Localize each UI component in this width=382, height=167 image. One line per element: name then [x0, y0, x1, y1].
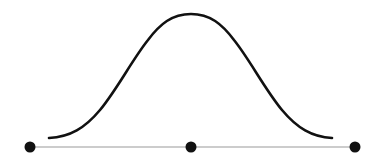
left-point: [25, 142, 36, 153]
center-point: [186, 142, 197, 153]
bell-curve: [49, 14, 332, 138]
right-point: [350, 142, 361, 153]
bell-curve-diagram: [0, 0, 382, 167]
diagram-svg: [0, 0, 382, 167]
